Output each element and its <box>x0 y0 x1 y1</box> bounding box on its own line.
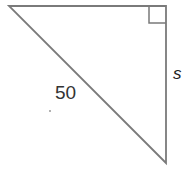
right-angle-marker <box>149 6 166 23</box>
side-s-label: s <box>173 65 182 82</box>
triangle-outline <box>9 6 166 163</box>
right-triangle-figure: 50 s <box>0 0 189 171</box>
stray-dot <box>49 110 51 112</box>
hypotenuse-label: 50 <box>55 83 76 102</box>
triangle-canvas <box>0 0 189 171</box>
